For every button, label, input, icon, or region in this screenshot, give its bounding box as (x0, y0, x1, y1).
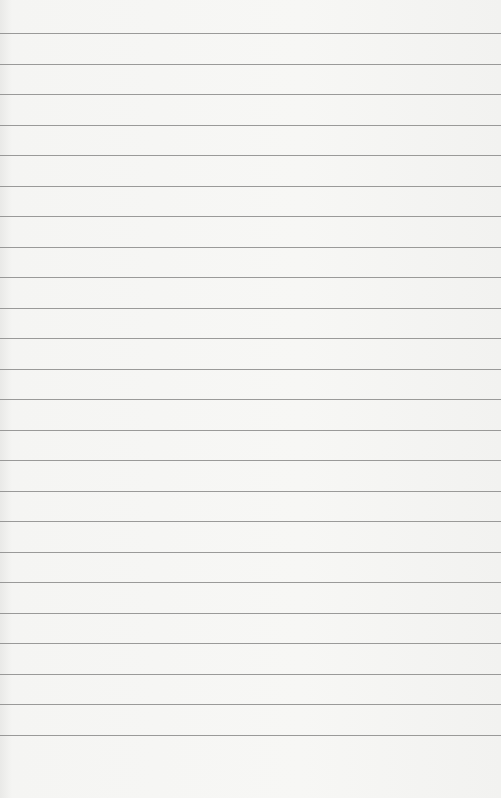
ruled-line (0, 491, 501, 492)
ruled-line (0, 369, 501, 370)
ruled-line (0, 155, 501, 156)
ruled-line (0, 643, 501, 644)
ruled-line (0, 552, 501, 553)
ruled-line (0, 125, 501, 126)
lined-paper (0, 0, 501, 798)
ruled-line (0, 735, 501, 736)
ruled-line (0, 64, 501, 65)
ruled-line (0, 186, 501, 187)
ruled-line (0, 33, 501, 34)
ruled-line (0, 582, 501, 583)
ruled-line (0, 399, 501, 400)
ruled-line (0, 613, 501, 614)
ruled-line (0, 277, 501, 278)
ruled-line (0, 94, 501, 95)
ruled-line (0, 521, 501, 522)
ruled-line (0, 460, 501, 461)
ruled-line (0, 430, 501, 431)
ruled-line (0, 308, 501, 309)
ruled-line (0, 674, 501, 675)
ruled-line (0, 704, 501, 705)
ruled-line (0, 338, 501, 339)
ruled-line (0, 216, 501, 217)
ruled-line (0, 247, 501, 248)
